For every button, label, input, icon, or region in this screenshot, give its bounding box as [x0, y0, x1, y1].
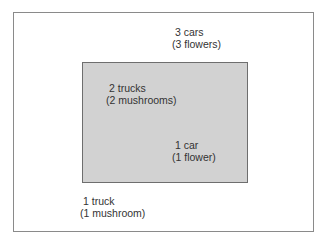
outside-label-count: 1 truck [80, 195, 145, 207]
inner-bottom-label-detail: (1 flower) [172, 151, 216, 163]
outer-label-detail: (3 flowers) [172, 38, 221, 50]
outer-region-label: 3 cars (3 flowers) [172, 26, 221, 50]
inner-region-top-label: 2 trucks (2 mushrooms) [106, 82, 177, 106]
inner-bottom-label-count: 1 car [172, 139, 216, 151]
inner-top-label-detail: (2 mushrooms) [106, 94, 177, 106]
outside-label-detail: (1 mushroom) [80, 207, 145, 219]
outer-label-count: 3 cars [172, 26, 221, 38]
inner-region-box [82, 62, 248, 183]
outside-label: 1 truck (1 mushroom) [80, 195, 145, 219]
inner-top-label-count: 2 trucks [106, 82, 177, 94]
inner-region-bottom-label: 1 car (1 flower) [172, 139, 216, 163]
